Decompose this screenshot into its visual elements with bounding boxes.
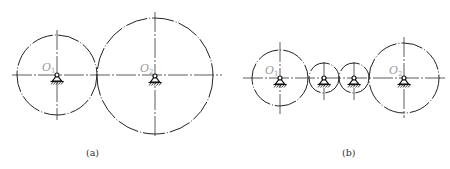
gear-b-2	[309, 62, 339, 100]
panel-a-two-gear-mesh: O1O2	[12, 12, 222, 138]
gear-b-4: O2	[369, 37, 439, 118]
caption-b: (b)	[342, 147, 356, 158]
gear-train-diagram: O1O2 O1O2 (a) (b)	[0, 0, 450, 169]
center-label-O1: O1	[42, 61, 56, 75]
center-label-O2: O2	[389, 64, 403, 78]
center-label-O1: O1	[265, 64, 279, 78]
center-label-O2: O2	[140, 62, 154, 76]
panel-b-four-gear-train: O1O2	[243, 37, 446, 118]
caption-a: (a)	[86, 147, 99, 158]
gear-b-3	[339, 62, 369, 100]
gear-b-1: O1	[252, 42, 308, 115]
